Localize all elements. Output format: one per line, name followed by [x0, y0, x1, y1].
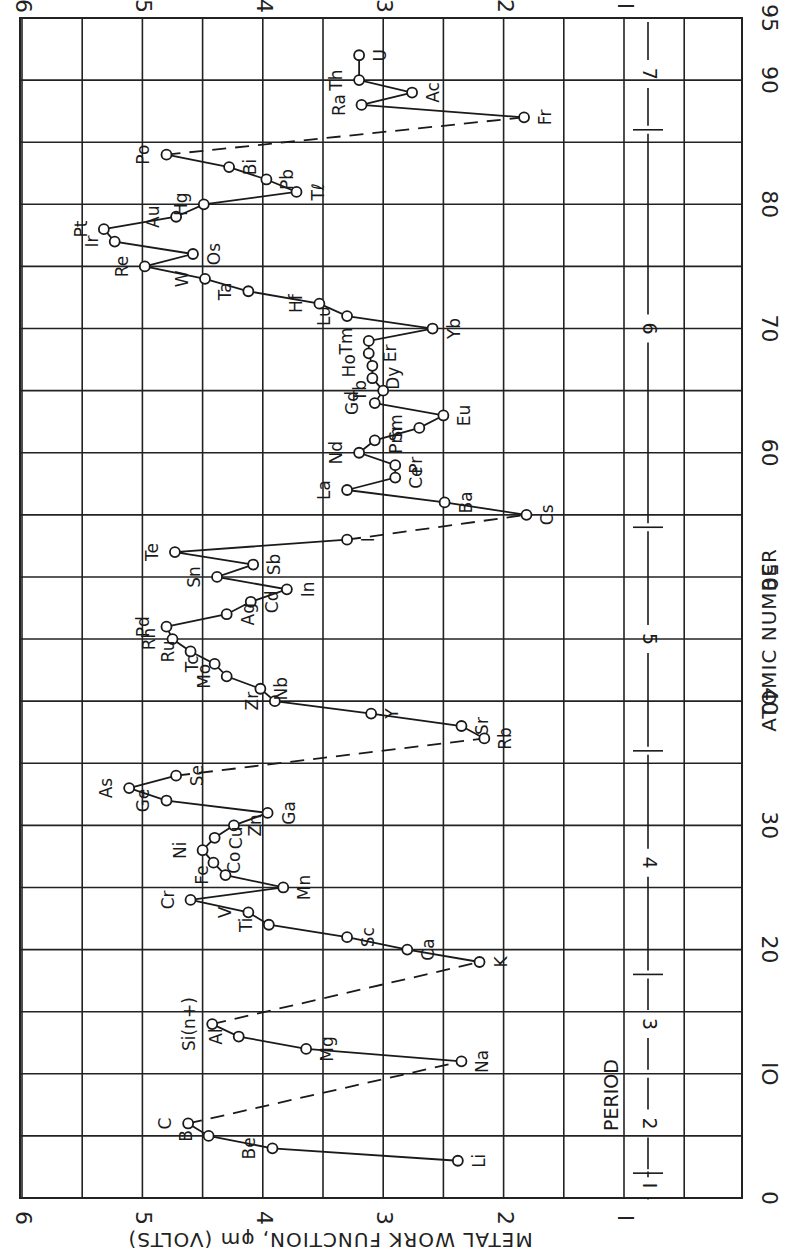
element-label: Os — [204, 243, 224, 265]
data-point-te — [170, 547, 180, 557]
element-label: Cr — [158, 890, 178, 909]
element-label: Mg — [317, 1036, 337, 1061]
data-point-ta — [243, 286, 253, 296]
element-label: Ac — [423, 82, 443, 103]
data-point-fr — [519, 112, 529, 122]
y-tick-label-bottom: 4 — [252, 1211, 277, 1225]
dashed-line — [166, 117, 524, 154]
element-label: Re — [112, 256, 132, 278]
data-point-ru — [186, 646, 196, 656]
element-label: V — [215, 906, 235, 918]
grid — [20, 18, 742, 1198]
period-number: I — [639, 1183, 661, 1189]
data-point-cs — [521, 510, 531, 520]
element-label: Tb — [350, 380, 370, 402]
element-label: Te — [142, 543, 162, 562]
data-point-bi — [224, 162, 234, 172]
x-tick-label: 70 — [757, 315, 782, 343]
data-point-be — [267, 1143, 277, 1153]
dashed-line — [347, 515, 526, 540]
element-label: K — [491, 956, 511, 968]
data-point-mg — [301, 1044, 311, 1054]
element-label: Ba — [456, 491, 476, 513]
data-lines — [104, 55, 527, 1160]
element-label: Y — [382, 708, 402, 720]
element-label: Hf — [286, 293, 306, 313]
element-label: Pd — [133, 616, 153, 637]
element-label: Cu — [226, 826, 246, 849]
element-label: Se — [187, 765, 207, 786]
element-label: Na — [472, 1050, 492, 1073]
element-label: Pr — [406, 457, 426, 474]
data-point-ce — [390, 473, 400, 483]
x-tick-label: 60 — [757, 439, 782, 467]
y-tick-label-top: 5 — [131, 0, 156, 13]
dashed-line — [176, 738, 484, 775]
data-point-pm — [370, 435, 380, 445]
data-point-nd — [354, 448, 364, 458]
data-point-i — [342, 535, 352, 545]
element-label: Hg — [171, 193, 191, 217]
element-label: Ni — [170, 841, 190, 858]
element-label: Yb — [444, 318, 464, 340]
data-point-pr — [390, 460, 400, 470]
element-label: Ag — [238, 603, 258, 625]
element-label: Sr — [472, 717, 492, 735]
element-label: La — [314, 480, 334, 500]
data-point-in — [282, 584, 292, 594]
element-label: Rb — [495, 727, 515, 750]
y-tick-label-bottom: I — [613, 1215, 638, 1222]
data-point-eu — [438, 410, 448, 420]
element-label: B — [176, 1130, 196, 1142]
element-label: Zr — [242, 692, 262, 711]
period-number: 4 — [639, 857, 661, 869]
element-label: Eu — [454, 405, 474, 427]
dashed-line — [212, 962, 479, 1024]
element-label: C — [155, 1118, 175, 1130]
data-point-mo — [222, 671, 232, 681]
element-label: Cd — [262, 590, 282, 613]
data-point-er — [364, 348, 374, 358]
data-point-os — [188, 249, 198, 259]
element-label: In — [298, 581, 318, 597]
x-tick-label: IO — [757, 1062, 782, 1086]
data-point-na — [456, 1056, 466, 1066]
y-tick-label-bottom: 5 — [131, 1211, 156, 1225]
element-label: Au — [143, 206, 163, 228]
data-point-y — [366, 709, 376, 719]
data-point-ti — [264, 920, 274, 930]
data-point-ni — [198, 845, 208, 855]
data-point-pt — [99, 224, 109, 234]
x-tick-label: 90 — [757, 66, 782, 94]
y-tick-label-bottom: 6 — [11, 1211, 36, 1225]
element-label: Pt — [71, 220, 91, 237]
element-label: Nd — [326, 441, 346, 465]
data-point-pd — [161, 622, 171, 632]
data-point-la — [342, 485, 352, 495]
element-label: Mn — [294, 875, 314, 900]
data-point-tm — [364, 336, 374, 346]
element-label: Zn — [245, 814, 265, 836]
data-point-ca — [402, 945, 412, 955]
element-label: Bi — [240, 159, 260, 175]
data-point-b — [204, 1131, 214, 1141]
data-point-al — [234, 1032, 244, 1042]
data-point-k — [475, 957, 485, 967]
element-label: Pb — [277, 169, 297, 190]
element-label: Po — [133, 145, 153, 165]
period-number: 6 — [639, 322, 661, 334]
data-point-v — [243, 907, 253, 917]
period-number: 7 — [639, 68, 661, 80]
x-tick-label: 80 — [757, 190, 782, 218]
data-point-cr — [186, 895, 196, 905]
data-point-sb — [248, 560, 258, 570]
element-label: I — [358, 537, 378, 542]
element-label: Ge — [133, 789, 153, 813]
data-point-ag — [222, 609, 232, 619]
element-label: Si(n+) — [179, 997, 199, 1051]
data-point-sc — [342, 932, 352, 942]
data-point-sn — [212, 572, 222, 582]
x-tick-label: 95 — [757, 4, 782, 32]
element-label: Cs — [537, 504, 557, 525]
element-label: W — [172, 270, 192, 287]
